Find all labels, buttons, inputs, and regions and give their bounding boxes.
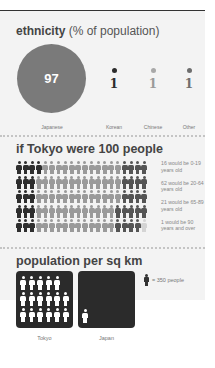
person-icon: [29, 176, 35, 189]
chinese-dot-icon: [151, 68, 156, 73]
korean-label: Korean: [94, 124, 134, 130]
person-icon: [82, 190, 88, 203]
person-icon: [75, 205, 81, 218]
person-icon: [95, 219, 101, 232]
person-icon: [102, 190, 108, 203]
person-icon: [89, 219, 95, 232]
person-icon: [54, 292, 60, 306]
korean-value: 1: [104, 77, 124, 91]
person-icon: [128, 190, 134, 203]
person-icon: [115, 219, 121, 232]
ethnicity-title: ethnicity (% of population): [16, 24, 159, 38]
person-icon: [36, 219, 42, 232]
person-icon: [89, 161, 95, 174]
person-icon: [56, 219, 62, 232]
person-icon: [42, 176, 48, 189]
person-icon: [46, 308, 52, 322]
japanese-circle: 97: [17, 44, 86, 113]
person-icon: [56, 161, 62, 174]
person-icon: [29, 276, 35, 290]
person-icon: [95, 205, 101, 218]
person-icon: [115, 205, 121, 218]
person-icon: [62, 205, 68, 218]
person-icon: [20, 276, 26, 290]
person-icon: [62, 176, 68, 189]
person-icon: [56, 176, 62, 189]
korean-dot-icon: [112, 68, 117, 73]
person-icon: [108, 205, 114, 218]
japanese-label: Japanese: [32, 124, 72, 130]
person-icon: [23, 205, 29, 218]
person-icon: [82, 219, 88, 232]
person-icon: [108, 176, 114, 189]
person-icon: [56, 205, 62, 218]
korean-item: 1: [104, 68, 124, 91]
person-icon: [54, 308, 60, 322]
person-icon: [141, 219, 147, 232]
person-icon: [141, 161, 147, 174]
person-icon: [16, 161, 22, 174]
person-icon: [63, 292, 69, 306]
person-icon: [135, 161, 141, 174]
person-icon: [82, 176, 88, 189]
person-icon: [128, 161, 134, 174]
person-icon: [16, 219, 22, 232]
person-icon: [62, 219, 68, 232]
person-icon: [49, 205, 55, 218]
other-label: Other: [169, 124, 209, 130]
person-icon: [108, 190, 114, 203]
density-key: = 350 people: [144, 274, 184, 286]
person-icon: [69, 219, 75, 232]
person-icon: [23, 161, 29, 174]
person-icon: [16, 176, 22, 189]
person-icon: [29, 219, 35, 232]
person-icon: [141, 176, 147, 189]
person-icon: [29, 205, 35, 218]
person-icon: [46, 292, 52, 306]
person-icon: [135, 176, 141, 189]
divider: [0, 135, 205, 137]
person-icon: [108, 219, 114, 232]
people-title: if Tokyo were 100 people: [16, 142, 163, 156]
person-icon: [144, 274, 149, 286]
legend-90-plus: 1 would be 90 years and over: [161, 219, 205, 239]
person-icon: [69, 205, 75, 218]
person-icon: [49, 161, 55, 174]
person-icon: [135, 190, 141, 203]
person-icon: [128, 219, 134, 232]
person-icon: [16, 190, 22, 203]
person-icon: [37, 308, 43, 322]
density-title: population per sq km: [16, 254, 142, 268]
person-icon: [69, 176, 75, 189]
person-icon: [82, 205, 88, 218]
person-icon: [122, 190, 128, 203]
person-icon: [54, 276, 60, 290]
other-value: 1: [179, 77, 199, 91]
person-icon: [141, 205, 147, 218]
person-icon: [69, 161, 75, 174]
person-icon: [42, 205, 48, 218]
person-icon: [62, 161, 68, 174]
person-icon: [37, 292, 43, 306]
person-icon: [102, 176, 108, 189]
japanese-value: 97: [44, 71, 58, 86]
person-icon: [29, 190, 35, 203]
chinese-label: Chinese: [133, 124, 173, 130]
person-icon: [20, 308, 26, 322]
person-icon: [36, 205, 42, 218]
person-icon: [89, 176, 95, 189]
person-icon: [23, 219, 29, 232]
person-icon: [75, 190, 81, 203]
person-icon: [82, 161, 88, 174]
person-icon: [29, 308, 35, 322]
person-icon: [122, 219, 128, 232]
person-icon: [63, 308, 69, 322]
person-icon: [122, 176, 128, 189]
person-icon: [69, 190, 75, 203]
people-grid: [16, 161, 148, 234]
person-icon: [75, 176, 81, 189]
person-icon: [36, 190, 42, 203]
japan-label: Japan: [78, 335, 135, 341]
ethnicity-title-subtitle: (% of population): [65, 24, 159, 38]
person-icon: [23, 190, 29, 203]
